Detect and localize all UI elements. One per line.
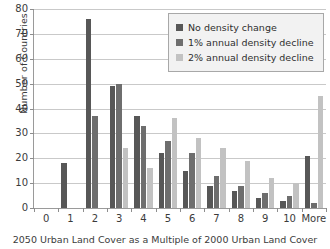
bar xyxy=(123,148,129,208)
bar xyxy=(256,198,262,208)
bar xyxy=(220,148,226,208)
y-tick-label: 60 xyxy=(15,54,28,64)
bar xyxy=(141,126,147,208)
x-tick-label: 1 xyxy=(67,214,73,224)
y-tick-label: 50 xyxy=(15,79,28,89)
x-axis-title: 2050 Urban Land Cover as a Multiple of 2… xyxy=(0,234,330,245)
x-tick-mark xyxy=(107,208,108,212)
x-tick-mark xyxy=(229,208,230,212)
bar xyxy=(280,201,286,208)
bar xyxy=(196,138,202,208)
x-tick-mark xyxy=(34,208,35,212)
bar xyxy=(172,118,178,208)
chart-legend: No density change1% annual density decli… xyxy=(168,13,324,72)
bar-chart: Number of Countries 01020304050607080 01… xyxy=(0,0,330,249)
gridline xyxy=(34,183,326,184)
bar xyxy=(147,168,153,208)
gridline xyxy=(34,109,326,110)
x-tick-label: 3 xyxy=(116,214,122,224)
bar xyxy=(238,186,244,208)
legend-item-label: 2% annual density decline xyxy=(188,53,314,63)
x-tick-mark xyxy=(326,208,327,212)
bar xyxy=(245,161,251,208)
gridline xyxy=(34,84,326,85)
bar xyxy=(318,96,324,208)
x-tick-label: 10 xyxy=(283,214,296,224)
y-tick-label: 80 xyxy=(15,4,28,14)
x-tick-label: 0 xyxy=(43,214,49,224)
y-axis-title: Number of Countries xyxy=(18,0,29,139)
y-tick-mark xyxy=(30,34,34,35)
x-tick-label: 7 xyxy=(213,214,219,224)
y-tick-mark xyxy=(30,109,34,110)
bar xyxy=(311,203,317,208)
y-tick-mark xyxy=(30,183,34,184)
bar xyxy=(86,19,92,208)
legend-item[interactable]: 2% annual density decline xyxy=(176,50,314,65)
legend-swatch-icon xyxy=(176,24,183,31)
x-tick-mark xyxy=(58,208,59,212)
legend-swatch-icon xyxy=(176,54,183,61)
x-tick-mark xyxy=(156,208,157,212)
bar xyxy=(110,86,116,208)
y-tick-label: 30 xyxy=(15,128,28,138)
y-tick-label: 40 xyxy=(15,104,28,114)
x-tick-mark xyxy=(180,208,181,212)
bar xyxy=(165,141,171,208)
y-tick-label: 70 xyxy=(15,29,28,39)
legend-item-label: No density change xyxy=(188,23,277,33)
bar xyxy=(189,153,195,208)
y-tick-mark xyxy=(30,84,34,85)
gridline xyxy=(34,158,326,159)
x-tick-mark xyxy=(302,208,303,212)
x-tick-label: 9 xyxy=(262,214,268,224)
gridline xyxy=(34,133,326,134)
y-tick-mark xyxy=(30,9,34,10)
bar xyxy=(92,116,98,208)
legend-item[interactable]: No density change xyxy=(176,20,314,35)
bar xyxy=(293,183,299,208)
bar xyxy=(183,171,189,208)
x-tick-mark xyxy=(204,208,205,212)
bar xyxy=(207,186,213,208)
y-tick-label: 10 xyxy=(15,178,28,188)
legend-swatch-icon xyxy=(176,39,183,46)
legend-item-label: 1% annual density decline xyxy=(188,38,314,48)
x-tick-label: 4 xyxy=(140,214,146,224)
bar xyxy=(134,116,140,208)
bar xyxy=(262,193,268,208)
legend-item[interactable]: 1% annual density decline xyxy=(176,35,314,50)
x-tick-label: 5 xyxy=(165,214,171,224)
x-tick-mark xyxy=(131,208,132,212)
bar xyxy=(116,84,122,208)
bar xyxy=(232,191,238,208)
bar xyxy=(269,178,275,208)
y-tick-mark xyxy=(30,158,34,159)
x-tick-mark xyxy=(83,208,84,212)
bar xyxy=(159,153,165,208)
y-tick-mark xyxy=(30,59,34,60)
y-tick-label: 20 xyxy=(15,153,28,163)
bar xyxy=(287,196,293,208)
x-tick-label: More xyxy=(301,214,326,224)
y-tick-mark xyxy=(30,133,34,134)
x-tick-mark xyxy=(253,208,254,212)
gridline xyxy=(34,9,326,10)
y-tick-label: 0 xyxy=(22,203,28,213)
x-tick-mark xyxy=(277,208,278,212)
x-tick-label: 8 xyxy=(238,214,244,224)
bar xyxy=(305,156,311,208)
x-tick-label: 2 xyxy=(92,214,98,224)
bar xyxy=(214,176,220,208)
x-tick-label: 6 xyxy=(189,214,195,224)
bar xyxy=(61,163,67,208)
